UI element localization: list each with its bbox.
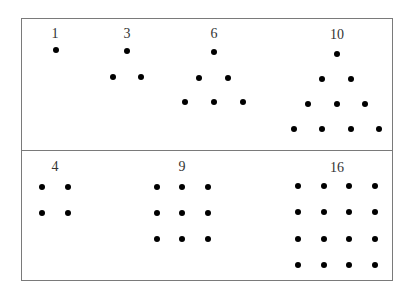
- dot-icon: [291, 126, 297, 132]
- dot-icon: [205, 210, 211, 216]
- dot-icon: [319, 76, 325, 82]
- dot-icon: [65, 184, 71, 190]
- dot-icon: [362, 101, 368, 107]
- dot-icon: [372, 262, 378, 268]
- dot-icon: [154, 184, 160, 190]
- dot-icon: [124, 48, 130, 54]
- dot-icon: [346, 183, 352, 189]
- dot-icon: [65, 210, 71, 216]
- dot-icon: [205, 184, 211, 190]
- dot-icon: [154, 236, 160, 242]
- dot-icon: [110, 74, 116, 80]
- dot-icon: [295, 209, 301, 215]
- dot-icon: [295, 183, 301, 189]
- dot-icon: [334, 101, 340, 107]
- dot-icon: [321, 262, 327, 268]
- dot-icon: [179, 210, 185, 216]
- dot-icon: [376, 126, 382, 132]
- dot-icon: [205, 236, 211, 242]
- group-label: 10: [330, 28, 344, 42]
- dot-icon: [348, 126, 354, 132]
- dot-icon: [240, 99, 246, 105]
- dot-icon: [225, 75, 231, 81]
- dot-icon: [53, 47, 59, 53]
- dot-icon: [179, 184, 185, 190]
- group-label: 9: [179, 160, 186, 174]
- dot-icon: [321, 236, 327, 242]
- dot-icon: [138, 74, 144, 80]
- group-label: 4: [52, 160, 59, 174]
- dot-icon: [372, 209, 378, 215]
- dot-icon: [319, 126, 325, 132]
- dot-icon: [295, 262, 301, 268]
- group-label: 16: [330, 161, 344, 175]
- group-label: 6: [211, 27, 218, 41]
- dot-icon: [211, 49, 217, 55]
- dot-icon: [211, 99, 217, 105]
- group-label: 3: [124, 27, 131, 41]
- dot-icon: [305, 101, 311, 107]
- dot-icon: [346, 209, 352, 215]
- dot-icon: [346, 236, 352, 242]
- row-divider: [21, 150, 393, 151]
- dot-icon: [372, 236, 378, 242]
- dot-icon: [154, 210, 160, 216]
- dot-icon: [182, 99, 188, 105]
- dot-icon: [321, 209, 327, 215]
- dot-icon: [196, 75, 202, 81]
- dot-icon: [334, 51, 340, 57]
- dot-icon: [39, 210, 45, 216]
- dot-icon: [372, 183, 378, 189]
- dot-icon: [295, 236, 301, 242]
- figurate-numbers-diagram: 136104916: [0, 0, 410, 293]
- dot-icon: [39, 184, 45, 190]
- dot-icon: [348, 76, 354, 82]
- dot-icon: [346, 262, 352, 268]
- dot-icon: [321, 183, 327, 189]
- dot-icon: [179, 236, 185, 242]
- group-label: 1: [52, 27, 59, 41]
